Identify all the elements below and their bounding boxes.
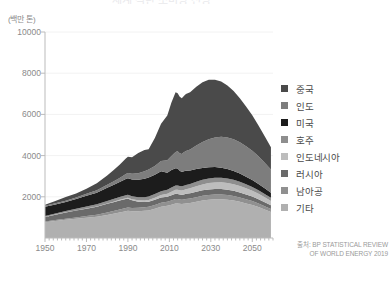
legend-item-label: 중국 — [296, 82, 314, 96]
legend-swatch-icon — [281, 153, 288, 160]
legend-swatch-icon — [281, 119, 288, 126]
legend-item: 러시아 — [281, 165, 385, 182]
y-axis-tick-label: 10000 — [5, 27, 41, 37]
legend-item-label: 미국 — [296, 116, 314, 130]
y-axis-tick-labels: 200040006000800010000 — [0, 32, 41, 238]
area-bands — [45, 80, 271, 238]
legend-item-label: 인도네시아 — [296, 150, 340, 164]
source-line-2: OF WORLD ENERGY 2019 — [272, 249, 388, 258]
y-axis-unit-label: (백만 톤) — [8, 13, 35, 24]
x-axis-tick-label: 2050 — [243, 243, 262, 253]
legend-item-label: 호주 — [296, 133, 314, 147]
x-axis-tick-labels: 195019701990201020302050 — [45, 243, 273, 257]
plot-area — [45, 32, 273, 238]
coal-consumption-chart-figure: 세계 석탄 소비량 전망 (백만 톤) 20004000600080001000… — [0, 0, 390, 289]
legend-item-label: 기타 — [296, 201, 314, 215]
x-axis-tick-label: 1950 — [36, 243, 55, 253]
legend: 중국인도미국호주인도네시아러시아남아공기타 — [281, 80, 385, 216]
legend-item-label: 남아공 — [296, 184, 322, 198]
legend-item: 호주 — [281, 131, 385, 148]
legend-swatch-icon — [281, 204, 288, 211]
legend-swatch-icon — [281, 187, 288, 194]
legend-item: 인도네시아 — [281, 148, 385, 165]
legend-swatch-icon — [281, 85, 288, 92]
legend-item: 기타 — [281, 199, 385, 216]
legend-item: 중국 — [281, 80, 385, 97]
x-axis-tick-label: 2010 — [160, 243, 179, 253]
legend-item: 인도 — [281, 97, 385, 114]
legend-item-label: 인도 — [296, 99, 314, 113]
y-axis-tick-label: 8000 — [5, 68, 41, 78]
y-axis-tick-label: 2000 — [5, 192, 41, 202]
y-axis-tick-label: 4000 — [5, 151, 41, 161]
chart-title-clipped: 세계 석탄 소비량 전망 — [0, 0, 390, 4]
legend-item: 미국 — [281, 114, 385, 131]
chart-title: 세계 석탄 소비량 전망 — [112, 0, 211, 4]
legend-swatch-icon — [281, 136, 288, 143]
legend-swatch-icon — [281, 170, 288, 177]
x-axis-tick-label: 2030 — [201, 243, 220, 253]
legend-item-label: 러시아 — [296, 167, 322, 181]
stacked-area-plot — [45, 32, 273, 238]
x-axis-tick-label: 1970 — [77, 243, 96, 253]
y-axis-tick-label: 6000 — [5, 109, 41, 119]
legend-swatch-icon — [281, 102, 288, 109]
x-axis-tick-label: 1990 — [118, 243, 137, 253]
legend-item: 남아공 — [281, 182, 385, 199]
source-line-1: 출처: BP STATISTICAL REVIEW — [272, 240, 388, 249]
source-note: 출처: BP STATISTICAL REVIEW OF WORLD ENERG… — [272, 240, 388, 258]
